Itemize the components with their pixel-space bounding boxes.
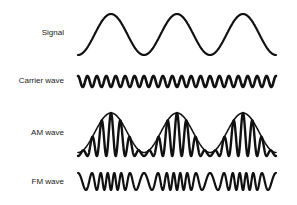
carrier-waveform: [78, 76, 276, 87]
fm-waveform: [78, 173, 276, 190]
am-waveform: [78, 113, 276, 156]
signal-waveform: [78, 14, 276, 55]
waveforms: [0, 0, 297, 205]
